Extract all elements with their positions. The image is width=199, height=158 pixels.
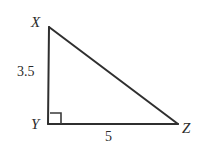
- vertex-label-z: Z: [182, 121, 190, 136]
- vertical-leg-line: [48, 27, 49, 124]
- side-length-label-horizontal-leg: 5: [105, 130, 112, 144]
- vertex-label-x: X: [31, 15, 40, 30]
- hypotenuse-line: [49, 27, 178, 124]
- triangle-drawing: [0, 0, 199, 158]
- side-length-label-vertical-leg: 3.5: [17, 65, 35, 79]
- right-angle-marker-icon: [50, 113, 61, 124]
- vertex-label-y: Y: [31, 117, 39, 132]
- right-triangle-figure: X Y Z 3.5 5: [0, 0, 199, 158]
